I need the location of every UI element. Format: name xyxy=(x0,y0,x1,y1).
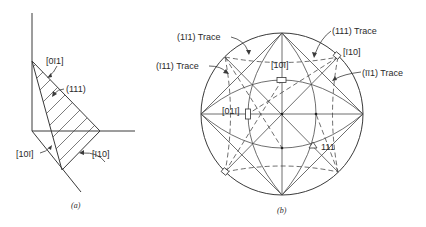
pole-111-marker xyxy=(309,142,317,148)
trace-bl-dashed xyxy=(225,80,282,172)
x-axis xyxy=(32,131,81,192)
arrow-trace-m1m11 xyxy=(335,72,361,79)
label-trace-m111: (ī11) Trace xyxy=(156,61,199,71)
pole-01m1-marker xyxy=(246,109,251,119)
trace-tl-dashed xyxy=(225,57,282,148)
hatching xyxy=(10,40,240,210)
arrow-trace-111 xyxy=(315,31,331,54)
pole-10m1-marker xyxy=(277,78,286,83)
label-trace-m1m11: (īī1) Trace xyxy=(362,68,403,78)
pole-m110-marker xyxy=(333,52,341,60)
label-dir-10m1: [10ī] xyxy=(271,60,289,70)
trace-bottom-dashed xyxy=(225,166,338,172)
figure-b: (1ī1) Trace (ī11) Trace (111) Trace (īī1… xyxy=(156,26,403,215)
label-dir-0m11: [0ī1] xyxy=(46,56,64,66)
label-dir-01m1: [01ī] xyxy=(222,106,240,116)
label-plane-111: (111) xyxy=(66,84,86,94)
trace-tr-dashed xyxy=(248,57,338,114)
diagram-canvas: [0ī1] (111) [10ī] [ī10] (a) xyxy=(0,0,426,227)
caption-b: (b) xyxy=(277,206,287,215)
line-top-left xyxy=(201,33,282,114)
label-trace-111: (111) Trace xyxy=(332,26,377,36)
pole-right xyxy=(315,113,318,116)
label-trace-1m11: (1ī1) Trace xyxy=(177,32,221,42)
pole-bottom xyxy=(281,147,284,150)
center-pole xyxy=(281,113,284,116)
label-pole-111: 111 xyxy=(321,142,335,152)
plane-111-triangle xyxy=(10,40,240,210)
caption-a: (a) xyxy=(71,201,81,210)
label-dir-m110: [ī10] xyxy=(343,47,361,57)
figure-a: [0ī1] (111) [10ī] [ī10] (a) xyxy=(10,13,240,210)
label-dir-10m1: [10ī] xyxy=(16,149,34,159)
label-dir-m110: [ī10] xyxy=(92,149,110,159)
arrow-trace-m111 xyxy=(209,66,226,72)
trace-right-dashed xyxy=(333,57,339,172)
line-bottom-right xyxy=(282,114,363,195)
